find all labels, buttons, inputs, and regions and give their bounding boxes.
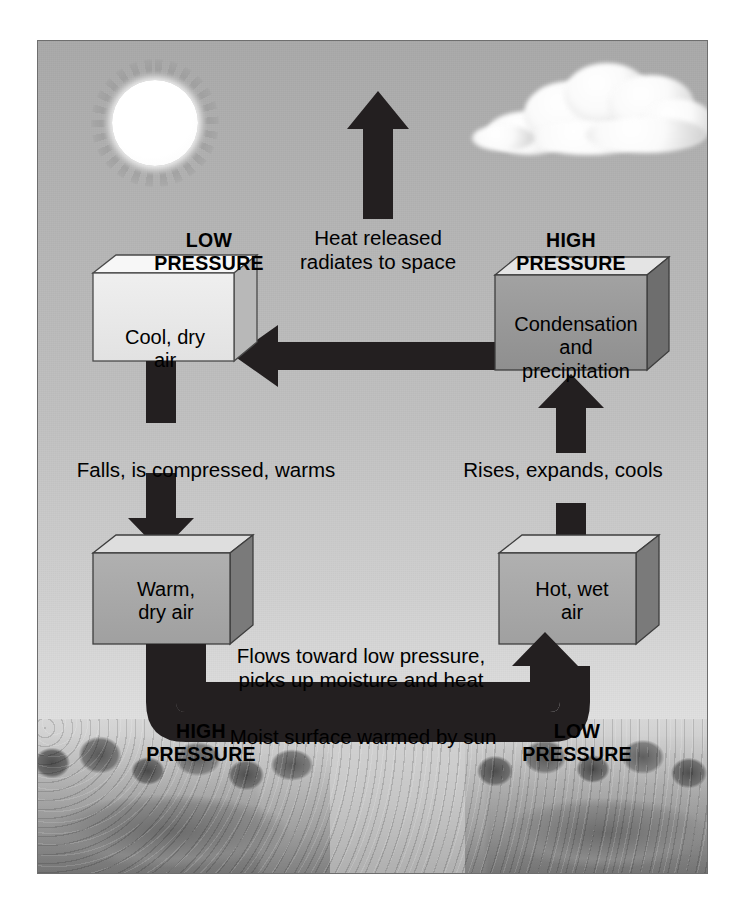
process-label-falls-compressed: Falls, is compressed, warms: [56, 458, 356, 482]
box-label-condensation-precipitation: Condensation and precipitation: [498, 313, 654, 383]
pressure-label-bottom-right: LOW PRESSURE: [502, 720, 652, 766]
arrow-to-space: [347, 91, 409, 219]
box-label-hot-wet-air: Hot, wet air: [502, 578, 642, 625]
box-label-warm-dry-air: Warm, dry air: [96, 578, 236, 625]
arrow-cool-to-warm: [128, 361, 194, 552]
process-label-moist-surface: Moist surface warmed by sun: [203, 725, 523, 749]
box-label-cool-dry-air: Cool, dry air: [92, 326, 238, 373]
process-label-rises-expands: Rises, expands, cools: [438, 458, 688, 482]
process-label-flows-toward: Flows toward low pressure, picks up mois…: [216, 644, 506, 692]
arrow-condensation-to-cool: [234, 325, 508, 387]
process-label-heat-released: Heat released radiates to space: [273, 226, 483, 274]
diagram-page: LOW PRESSURE HIGH PRESSURE HIGH PRESSURE…: [0, 0, 745, 910]
diagram-frame: LOW PRESSURE HIGH PRESSURE HIGH PRESSURE…: [37, 40, 708, 874]
pressure-label-top-right: HIGH PRESSURE: [496, 229, 646, 275]
pressure-label-top-left: LOW PRESSURE: [134, 229, 284, 275]
